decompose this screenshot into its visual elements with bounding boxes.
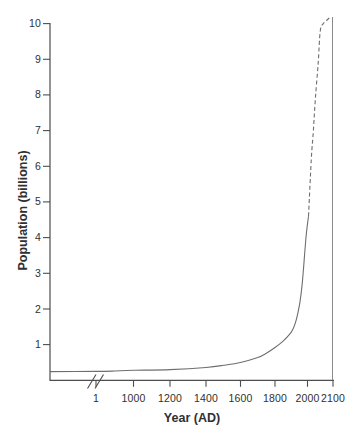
y-tick-label: 2 (9, 303, 41, 316)
y-tick-label: 8 (9, 88, 41, 101)
projected-population-curve (309, 17, 332, 217)
axes-lines (50, 23, 334, 380)
y-tick-label: 7 (9, 124, 41, 137)
y-tick-label: 9 (9, 53, 41, 66)
y-tick-label: 5 (9, 195, 41, 208)
x-axis-title: Year (AD) (50, 411, 334, 425)
y-tick-label: 4 (9, 231, 41, 244)
plot-area (0, 0, 361, 438)
x-tick-label: 2100 (311, 392, 355, 405)
y-tick-label: 3 (9, 267, 41, 280)
y-tick-label: 1 (9, 338, 41, 351)
y-tick-label: 6 (9, 160, 41, 173)
y-tick-label: 10 (9, 17, 41, 30)
historical-population-curve (50, 216, 309, 371)
population-growth-chart: Population (billions) 10987654321 110001… (0, 0, 361, 438)
axis-break-slash (88, 375, 97, 389)
